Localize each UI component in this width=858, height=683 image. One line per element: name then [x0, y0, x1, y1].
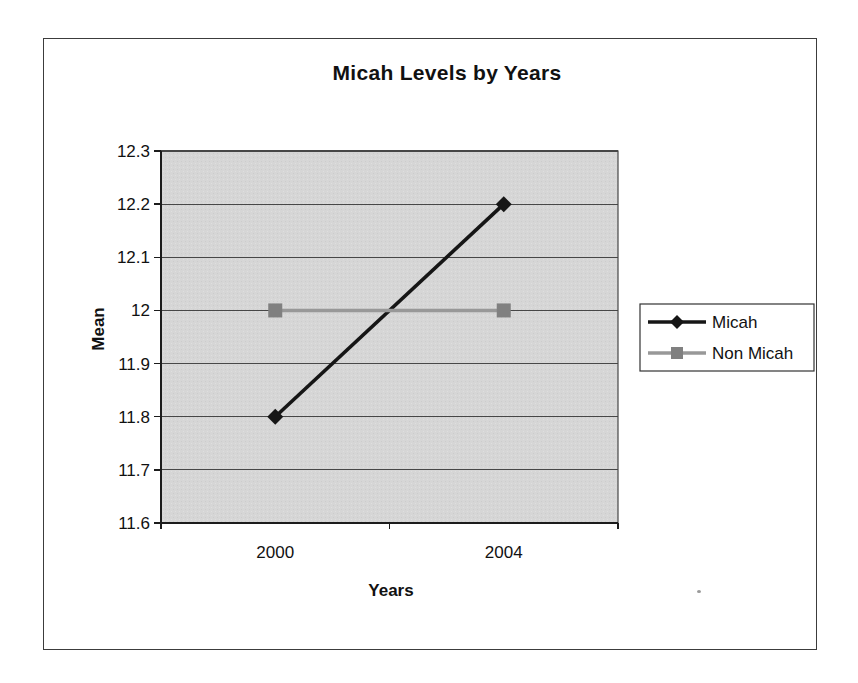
square-marker — [671, 347, 683, 359]
x-tick-label: 2000 — [256, 543, 294, 562]
y-tick-label: 11.6 — [118, 514, 150, 533]
plot-area — [161, 151, 618, 523]
y-tick-label: 12.2 — [117, 195, 150, 214]
square-marker — [268, 303, 282, 317]
y-tick-label: 11.8 — [118, 408, 150, 427]
chart-title: Micah Levels by Years — [147, 61, 747, 85]
y-tick-label: 11.7 — [118, 461, 150, 480]
scan-speck — [697, 590, 701, 593]
y-axis-title: Mean — [89, 307, 108, 350]
y-tick-label: 11.9 — [118, 355, 150, 374]
x-tick-label: 2004 — [485, 543, 523, 562]
y-tick-label: 12.1 — [117, 248, 150, 267]
y-tick-label: 12.3 — [117, 142, 150, 161]
legend-label: Non Micah — [712, 344, 793, 363]
x-axis-title: Years — [368, 581, 413, 600]
y-tick-label: 12 — [131, 301, 150, 320]
line-chart: 12.312.212.11211.911.811.711.620002004Ye… — [44, 39, 816, 649]
chart-frame: Micah Levels by Years 12.312.212.11211.9… — [43, 38, 817, 650]
square-marker — [497, 303, 511, 317]
legend-label: Micah — [712, 313, 757, 332]
document-page: Micah Levels by Years 12.312.212.11211.9… — [0, 0, 858, 683]
